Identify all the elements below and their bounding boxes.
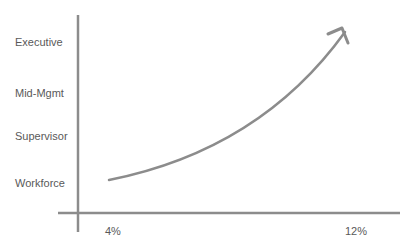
growth-curve bbox=[109, 32, 345, 180]
x-label-12pct: 12% bbox=[345, 225, 367, 237]
x-label-4pct: 4% bbox=[105, 225, 121, 237]
y-label-mid-mgmt: Mid-Mgmt bbox=[15, 87, 64, 99]
y-label-workforce: Workforce bbox=[15, 177, 65, 189]
y-label-supervisor: Supervisor bbox=[15, 130, 68, 142]
y-label-executive: Executive bbox=[15, 36, 63, 48]
